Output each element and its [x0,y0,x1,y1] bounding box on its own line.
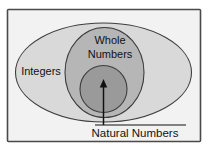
set-label-whole-numbers-line1: Whole [94,34,125,46]
callout-label-natural-numbers: Natural Numbers [92,127,179,139]
set-label-whole-numbers-line2: Numbers [88,48,133,60]
venn-diagram-figure: Integers Whole Numbers Natural Numbers [0,0,208,150]
set-label-integers: Integers [21,65,61,77]
venn-diagram-canvas: Integers Whole Numbers Natural Numbers [0,0,208,150]
